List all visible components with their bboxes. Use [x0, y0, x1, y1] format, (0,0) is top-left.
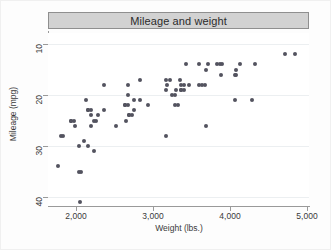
data-point [92, 149, 96, 153]
data-point [164, 134, 168, 138]
data-point [138, 78, 142, 82]
data-point [165, 83, 169, 87]
data-point [86, 144, 90, 148]
data-point [61, 134, 65, 138]
data-point [250, 98, 254, 102]
data-point [253, 62, 257, 66]
data-point [164, 78, 168, 82]
data-point [114, 124, 118, 128]
data-point [187, 83, 191, 87]
data-point [233, 98, 237, 102]
data-point [126, 83, 130, 87]
data-point [92, 119, 96, 123]
data-point [283, 52, 287, 56]
data-point [72, 119, 76, 123]
data-point [178, 78, 182, 82]
data-point [233, 73, 237, 77]
x-tick-label: 4,000 [210, 211, 250, 221]
data-point [89, 124, 93, 128]
x-axis-title: Weight (lbs.) [48, 223, 310, 233]
data-point [79, 170, 83, 174]
chart-figure: Mileage and weight 10203040 2,0003,0004,… [0, 0, 331, 250]
y-tick-label-wrap: 20 [1, 90, 41, 100]
x-tick-label: 2,000 [56, 211, 96, 221]
y-tick-label-wrap: 30 [1, 141, 41, 151]
data-point [204, 124, 208, 128]
data-point [184, 62, 188, 66]
plot-area [48, 33, 309, 206]
data-point [197, 62, 201, 66]
data-point [138, 98, 142, 102]
data-point [174, 88, 178, 92]
data-point [132, 108, 136, 112]
data-point [168, 78, 172, 82]
data-point [173, 93, 177, 97]
data-point [164, 88, 168, 92]
data-point [126, 93, 130, 97]
data-point [206, 62, 210, 66]
data-point [176, 103, 180, 107]
data-point [102, 108, 106, 112]
x-axis-line [48, 206, 310, 207]
chart-title-banner: Mileage and weight [48, 12, 309, 29]
gridline-y-10 [48, 44, 309, 45]
data-point [132, 98, 136, 102]
y-tick-label: 30 [34, 146, 44, 166]
y-tick-label: 20 [34, 95, 44, 115]
data-point [56, 164, 60, 168]
y-tick-label-wrap: 10 [1, 39, 41, 49]
data-point [73, 124, 77, 128]
gridline-y-40 [48, 197, 309, 198]
data-point [234, 68, 238, 72]
data-point [96, 113, 100, 117]
data-point [124, 119, 128, 123]
data-point [293, 52, 297, 56]
data-point [78, 200, 82, 204]
data-point [204, 68, 208, 72]
x-tick-label: 3,000 [133, 211, 173, 221]
data-point [197, 83, 201, 87]
y-tick-label: 40 [34, 197, 44, 217]
data-point [89, 113, 93, 117]
data-point [182, 83, 186, 87]
data-point [77, 144, 81, 148]
data-point [82, 139, 86, 143]
data-point [84, 98, 88, 102]
data-point [146, 103, 150, 107]
gridline-y-20 [48, 95, 309, 96]
x-tick-label: 5,000 [287, 211, 327, 221]
chart-title: Mileage and weight [130, 15, 227, 27]
y-tick-label-wrap: 40 [1, 192, 41, 202]
data-point [102, 83, 106, 87]
y-axis-title: Mileage (mpg) [8, 69, 18, 159]
data-point [219, 73, 223, 77]
data-point [238, 62, 242, 66]
y-tick-label: 10 [34, 44, 44, 64]
